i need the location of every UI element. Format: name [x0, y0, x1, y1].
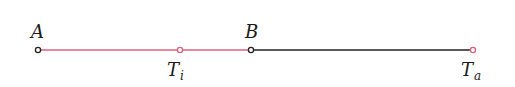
label-ti-main: T [167, 59, 181, 80]
label-a: A [29, 21, 44, 42]
label-ta: Ta [461, 59, 481, 83]
point-a [35, 47, 40, 52]
label-ta-subscript: a [474, 69, 481, 83]
point-ta [470, 47, 475, 52]
label-ta-main: T [461, 59, 475, 80]
label-ti: Ti [167, 59, 184, 83]
point-ti [177, 47, 182, 52]
line-diagram: A B Ti Ta [0, 0, 515, 87]
label-b: B [244, 21, 258, 42]
label-ti-subscript: i [180, 69, 184, 83]
point-b [248, 47, 253, 52]
